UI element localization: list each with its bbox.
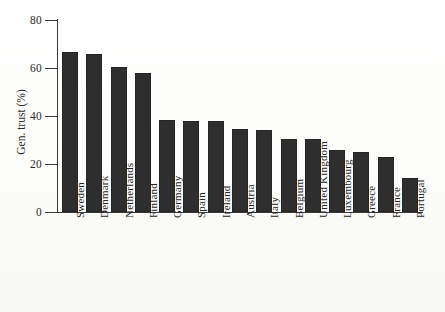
x-axis-tick-label: Belgium: [293, 179, 305, 218]
x-axis-tick-label: Sweden: [74, 182, 86, 218]
x-axis-tick-label: Spain: [195, 192, 207, 218]
x-axis-tick-label: Finland: [147, 183, 159, 218]
x-axis-tick-label: Germany: [171, 176, 183, 218]
y-axis-title: Gen. trust (%): [15, 57, 27, 187]
y-axis-tick-80: [45, 20, 57, 21]
x-axis-tick-label: France: [390, 187, 402, 218]
x-axis-tick-label: Italy: [268, 197, 280, 218]
bar-chart: 020406080 Gen. trust (%) SwedenDenmarkNe…: [0, 0, 445, 312]
x-axis-tick-label: United Kingdom: [317, 141, 329, 218]
x-axis-tick-label: Austria: [244, 184, 256, 218]
x-axis-tick-label: Denmark: [98, 176, 110, 218]
x-axis-tick-label: Netherlands: [123, 163, 135, 218]
y-axis-tick-40: [45, 116, 57, 117]
x-axis-tick-label: Ireland: [220, 185, 232, 218]
y-axis-tick-0: [45, 212, 57, 213]
x-axis-tick-label: Greece: [365, 186, 377, 218]
y-axis-tick-60: [45, 68, 57, 69]
y-axis-tick-label: 80: [2, 14, 42, 26]
y-axis-tick-label: 0: [2, 206, 42, 218]
x-axis-tick-label: Luxembourg: [341, 159, 353, 218]
y-axis-tick-20: [45, 164, 57, 165]
x-axis-tick-labels: SwedenDenmarkNetherlandsFinlandGermanySp…: [58, 0, 422, 100]
x-axis-tick-label: Portugal: [414, 179, 426, 218]
